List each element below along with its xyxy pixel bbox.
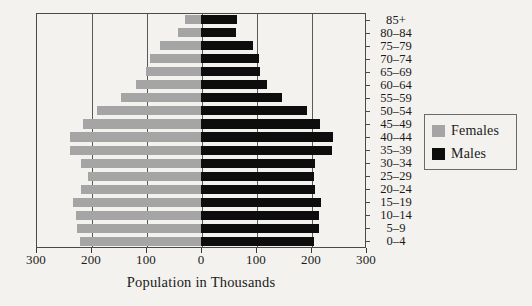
age-group-label: 40–44 [368, 131, 424, 144]
bar-male [201, 41, 253, 50]
age-group-label: 0–4 [368, 235, 424, 248]
age-group-label: 30–34 [368, 157, 424, 170]
bar-male [201, 172, 314, 181]
bar-female [121, 93, 201, 102]
x-tick-label: 100 [126, 252, 166, 268]
bar-row [36, 28, 366, 37]
bar-male [201, 67, 260, 76]
bar-female [73, 198, 201, 207]
bar-row [36, 159, 366, 168]
y-tick [366, 72, 370, 73]
y-tick [366, 46, 370, 47]
y-tick [366, 85, 370, 86]
bar-female [80, 237, 201, 246]
bar-row [36, 211, 366, 220]
bar-row [36, 224, 366, 233]
bar-male [201, 185, 315, 194]
y-tick [366, 189, 370, 190]
bar-row [36, 172, 366, 181]
bar-row [36, 80, 366, 89]
bar-male [201, 15, 237, 24]
bar-male [201, 93, 282, 102]
bar-female [178, 28, 201, 37]
bar-male [201, 211, 319, 220]
bar-female [185, 15, 201, 24]
age-group-label: 25–29 [368, 170, 424, 183]
y-tick [366, 150, 370, 151]
age-group-label: 10–14 [368, 209, 424, 222]
age-group-label: 70–74 [368, 53, 424, 66]
bar-female [70, 132, 201, 141]
age-group-label: 5–9 [368, 222, 424, 235]
bar-female [146, 67, 201, 76]
y-tick [366, 111, 370, 112]
y-tick [366, 98, 370, 99]
bar-female [83, 119, 201, 128]
age-group-label: 75–79 [368, 40, 424, 53]
bar-male [201, 237, 314, 246]
y-tick [366, 176, 370, 177]
x-tick-label: 0 [181, 252, 221, 268]
bar-female [77, 224, 201, 233]
age-group-label: 55–59 [368, 92, 424, 105]
legend-swatch-males [432, 148, 445, 160]
bar-female [150, 54, 201, 63]
bar-row [36, 41, 366, 50]
y-tick [366, 137, 370, 138]
y-tick [366, 20, 370, 21]
bar-female [97, 106, 202, 115]
age-group-label: 80–84 [368, 27, 424, 40]
bar-row [36, 146, 366, 155]
bar-male [201, 119, 320, 128]
bar-row [36, 198, 366, 207]
legend-item-males: Males [432, 146, 486, 162]
y-tick [366, 124, 370, 125]
bar-male [201, 159, 315, 168]
bar-male [201, 146, 332, 155]
legend-label-females: Females [451, 123, 499, 139]
x-tick-label: 300 [16, 252, 56, 268]
bar-female [81, 159, 201, 168]
y-tick [366, 163, 370, 164]
bar-row [36, 185, 366, 194]
bar-row [36, 119, 366, 128]
bar-male [201, 80, 267, 89]
bar-row [36, 93, 366, 102]
age-group-label: 45–49 [368, 118, 424, 131]
bar-row [36, 237, 366, 246]
bar-female [88, 172, 201, 181]
bar-female [81, 185, 201, 194]
bar-male [201, 28, 236, 37]
bar-row [36, 132, 366, 141]
legend-swatch-females [432, 125, 445, 137]
age-group-label: 60–64 [368, 79, 424, 92]
y-tick [366, 241, 370, 242]
y-tick [366, 33, 370, 34]
chart-legend: Females Males [424, 114, 517, 170]
bar-row [36, 67, 366, 76]
age-group-label: 85+ [368, 14, 424, 27]
x-tick-label: 200 [291, 252, 331, 268]
bar-female [160, 41, 201, 50]
bar-female [76, 211, 201, 220]
age-group-labels: 85+80–8475–7970–7465–6960–6455–5950–5445… [368, 13, 424, 248]
legend-label-males: Males [451, 146, 486, 162]
y-tick [366, 202, 370, 203]
bar-female [136, 80, 201, 89]
y-tick [366, 228, 370, 229]
bar-row [36, 106, 366, 115]
x-tick-label: 100 [236, 252, 276, 268]
legend-item-females: Females [432, 123, 499, 139]
y-tick [366, 59, 370, 60]
age-group-label: 20–24 [368, 183, 424, 196]
bar-male [201, 54, 259, 63]
bar-row [36, 54, 366, 63]
age-group-label: 15–19 [368, 196, 424, 209]
bars-layer [36, 13, 366, 248]
bar-male [201, 106, 307, 115]
bar-male [201, 224, 319, 233]
x-tick-label: 200 [71, 252, 111, 268]
age-group-label: 50–54 [368, 105, 424, 118]
population-pyramid-chart: 3002001000100200300 Population in Thousa… [0, 0, 532, 306]
x-tick-label: 300 [346, 252, 386, 268]
